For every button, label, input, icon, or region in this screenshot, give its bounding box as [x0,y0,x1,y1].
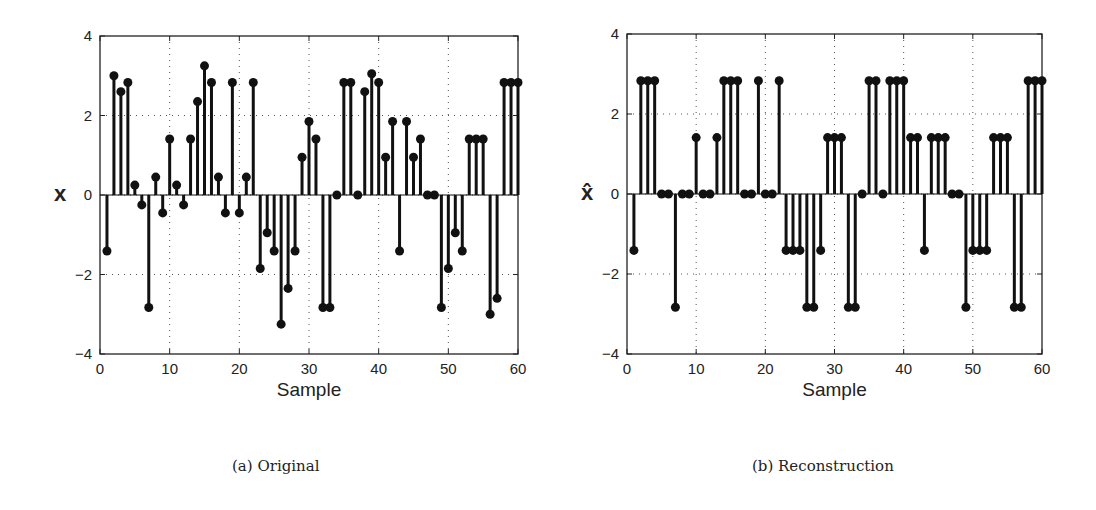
svg-text:30: 30 [301,360,318,377]
svg-text:x: x [54,181,67,206]
svg-text:40: 40 [370,360,387,377]
svg-text:50: 50 [964,360,981,377]
svg-text:−4: −4 [75,345,92,362]
stem-plot-original: 0102030405060−4−2024Samplex [0,0,548,440]
svg-text:−2: −2 [602,265,619,282]
svg-text:Sample: Sample [802,379,866,400]
svg-text:0: 0 [611,185,619,202]
svg-text:4: 4 [611,25,619,42]
stem-plot-reconstruction: 0102030405060−4−2024Samplex̂ [548,0,1096,440]
svg-text:40: 40 [895,360,912,377]
svg-text:10: 10 [161,360,178,377]
svg-text:20: 20 [757,360,774,377]
svg-text:10: 10 [688,360,705,377]
svg-text:60: 60 [1034,360,1051,377]
svg-text:x̂: x̂ [581,180,594,205]
chart-original: 0102030405060−4−2024Samplex [0,0,548,440]
svg-text:50: 50 [440,360,457,377]
svg-text:2: 2 [84,107,92,124]
chart-reconstruction: 0102030405060−4−2024Samplex̂ [548,0,1096,440]
svg-text:2: 2 [611,105,619,122]
svg-text:0: 0 [623,360,631,377]
svg-text:0: 0 [84,186,92,203]
svg-text:60: 60 [510,360,527,377]
svg-text:4: 4 [84,27,92,44]
svg-text:0: 0 [96,360,104,377]
svg-text:−2: −2 [75,266,92,283]
svg-text:Sample: Sample [277,379,341,400]
caption-original: (a) Original [232,457,319,475]
svg-text:30: 30 [826,360,843,377]
svg-text:20: 20 [231,360,248,377]
svg-text:−4: −4 [602,345,619,362]
caption-reconstruction: (b) Reconstruction [752,457,894,475]
